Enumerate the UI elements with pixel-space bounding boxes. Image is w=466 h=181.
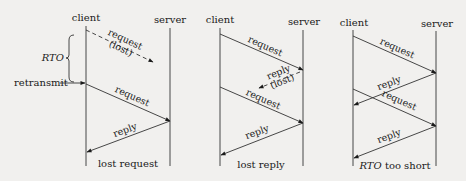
client-label: client — [206, 14, 234, 25]
server-label: server — [154, 14, 186, 25]
message-label: request — [378, 35, 416, 60]
panel-rto-too-short: client server request reply request repl… — [340, 17, 453, 171]
panel-caption: RTO too short — [358, 160, 430, 171]
rto-label: RTO — [41, 52, 64, 63]
server-label: server — [421, 18, 453, 29]
caption-rto: RTO — [358, 160, 381, 171]
rto-brace-icon — [66, 35, 74, 82]
message-label: reply — [243, 122, 271, 141]
retransmit-label: retransmit — [14, 77, 68, 88]
retransmission-timeline-diagram: client server request (lost) RTO retrans… — [0, 0, 466, 181]
message-label: request — [244, 86, 282, 111]
panel-caption: lost reply — [237, 159, 285, 170]
panel-caption: lost request — [98, 158, 158, 169]
panel-lost-reply: client server request reply (lost) reque… — [206, 14, 320, 170]
message-label: request — [246, 33, 284, 58]
message-label: reply — [375, 126, 403, 145]
client-label: client — [340, 17, 368, 28]
client-label: client — [72, 12, 100, 23]
message-label: reply — [111, 120, 139, 139]
message-label: request — [380, 87, 418, 112]
server-label: server — [288, 16, 320, 27]
panel-lost-request: client server request (lost) RTO retrans… — [14, 12, 186, 169]
caption-rest: too short — [382, 160, 431, 171]
